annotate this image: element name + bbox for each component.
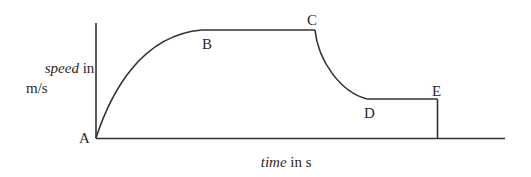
point-label-e: E (432, 83, 441, 99)
curve-a-to-b (96, 30, 202, 138)
x-axis-label-unit: in s (287, 154, 312, 170)
y-axis-label-in: in (79, 60, 95, 76)
x-axis-label: time in s (242, 154, 323, 170)
point-label-c: C (307, 12, 317, 28)
point-label-d: D (364, 105, 375, 121)
point-label-a: A (79, 130, 90, 146)
speed-time-graph: A B C D E speed in m/s time in s (0, 0, 531, 177)
curve-c-to-d (315, 30, 367, 99)
point-label-b: B (202, 36, 212, 52)
y-axis-label: speed in (26, 60, 106, 76)
y-axis-unit: m/s (26, 80, 48, 96)
x-axis-label-quantity: time (261, 154, 287, 170)
y-axis-label-quantity: speed (45, 60, 80, 76)
